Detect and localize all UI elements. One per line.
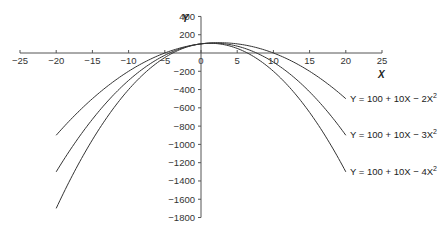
x-tick-label: 5 (235, 55, 240, 66)
y-tick-label: −200 (174, 66, 195, 77)
y-tick-label: 200 (179, 29, 195, 40)
x-tick-label: −10 (121, 55, 137, 66)
y-tick-label: −1200 (168, 157, 195, 168)
y-tick-label: −1600 (168, 194, 195, 205)
y-tick-label: −1400 (168, 175, 195, 186)
quadratic-chart: −25−20−15−10−50510152025400200−200−400−6… (0, 0, 448, 235)
label-curve3: Y = 100 + 10X − 4X2 (350, 165, 437, 177)
curve-labels: Y = 100 + 10X − 2X2Y = 100 + 10X − 3X2Y … (350, 92, 437, 177)
x-tick-label: −20 (48, 55, 64, 66)
label-curve2: Y = 100 + 10X − 3X2 (350, 128, 437, 140)
label-curve1: Y = 100 + 10X − 2X2 (350, 92, 437, 104)
y-tick-label: −800 (174, 121, 195, 132)
x-axis-title: X (377, 69, 386, 80)
axes: −25−20−15−10−50510152025400200−200−400−6… (12, 11, 387, 223)
x-tick-label: 20 (341, 55, 352, 66)
x-tick-label: −15 (84, 55, 100, 66)
x-tick-label: 25 (377, 55, 388, 66)
x-tick-label: 15 (304, 55, 315, 66)
y-tick-label: −1000 (168, 139, 195, 150)
y-tick-label: −600 (174, 102, 195, 113)
y-tick-label: −1800 (168, 212, 195, 223)
y-tick-label: −400 (174, 84, 195, 95)
x-tick-label: −25 (12, 55, 28, 66)
